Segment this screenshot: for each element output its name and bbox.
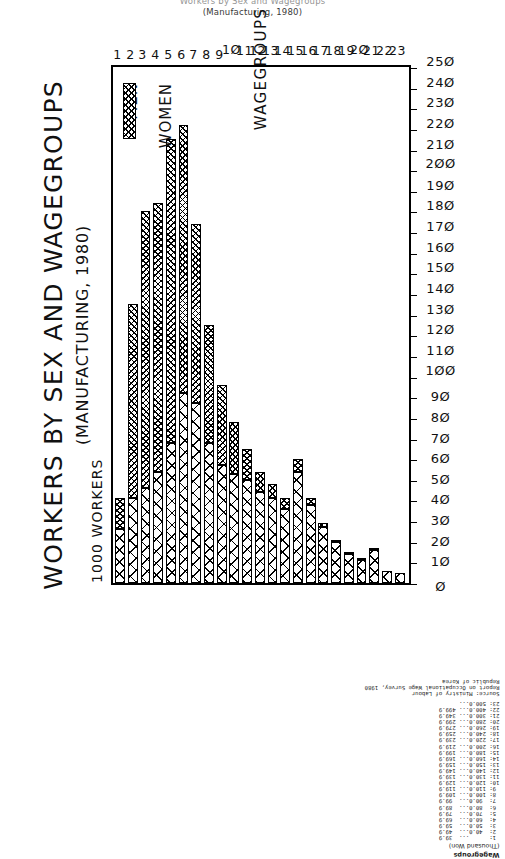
chart-title: WORKERS BY SEX AND WAGEGROUPS (39, 25, 68, 645)
bar-segment-men (293, 471, 303, 582)
legend-label-women: WOMEN (157, 83, 175, 148)
value-axis-tick (411, 129, 417, 130)
value-axis: Ø1Ø2Ø3Ø4Ø5Ø6Ø7Ø8Ø9Ø1ØØ11Ø12Ø13Ø14Ø15Ø16Ø… (411, 65, 471, 585)
bar-segment-women (216, 384, 226, 464)
bar-segment-men (229, 473, 239, 582)
wagegroup-key-row: 6: 80.0... 89.9 (364, 804, 499, 810)
wagegroup-key-row: 19: 260.0... 279.9 (364, 725, 499, 731)
source-note: Source: Ministry of LabourReport on Occu… (364, 679, 499, 697)
bar-segment-women (242, 448, 252, 479)
bar-segment-men (343, 554, 353, 583)
bar-segment-men (115, 529, 125, 583)
wagegroup-key-row: 14: 160.0... 169.9 (364, 756, 499, 762)
bar-segment-women (204, 325, 214, 443)
wagegroup-key-row: 10: 120.0... 129.9 (364, 780, 499, 786)
bar-segment-men (254, 492, 264, 583)
value-axis-tick (411, 191, 417, 192)
value-axis-tick (411, 460, 417, 461)
value-axis-tick-label: 5Ø (419, 469, 448, 489)
group-axis-title-text: WAGEGROUPS (252, 7, 270, 130)
value-axis-tick (411, 171, 417, 172)
wagegroup-key-title: Wagegroups (364, 851, 499, 859)
bar-segment-women (280, 498, 290, 508)
value-axis-tick-label: 9Ø (419, 386, 448, 406)
value-axis-title: 1000 WORKERS (89, 458, 105, 583)
value-axis-tick-label: 4Ø (419, 489, 448, 509)
wagegroup-key-row: 12: 140.0... 149.9 (364, 768, 499, 774)
bar-segment-men (178, 393, 188, 583)
bar-segment-women (293, 459, 303, 471)
bar-segment-women (369, 547, 379, 549)
value-axis-tick (411, 253, 417, 254)
chart-legend: MEN WOMEN (123, 83, 191, 233)
wagegroup-key-row: 8: 100.0... 109.9 (364, 792, 499, 798)
value-axis-tick (411, 150, 417, 151)
bar-segment-men (165, 442, 175, 582)
bar-segment-men (242, 479, 252, 582)
bar-segment-women (115, 498, 125, 529)
bar-segment-women (127, 304, 137, 498)
value-axis-tick (411, 480, 417, 481)
wagegroup-key-row: 13: 150.0... 159.9 (364, 762, 499, 768)
bar-segment-men (356, 560, 366, 583)
wagegroup-key-row: 20: 280.0... 299.9 (364, 719, 499, 725)
wagegroup-key-row: 2: 40.0... 49.9 (364, 829, 499, 835)
bar-segment-women (356, 558, 366, 560)
value-axis-tick-label: 7Ø (419, 428, 448, 448)
bar-segment-men (153, 471, 163, 582)
wagegroup-key-row: 15: 180.0... 199.9 (364, 750, 499, 756)
wagegroup-key-row: 21: 300.0... 349.9 (364, 713, 499, 719)
legend-item-women[interactable]: WOMEN (157, 83, 175, 233)
value-axis-tick (411, 212, 417, 213)
bar-segment-women (229, 422, 239, 474)
bar-segment-women (267, 483, 277, 497)
bar-segment-men (267, 498, 277, 583)
value-axis-tick (411, 274, 417, 275)
legend-swatch-women (123, 83, 136, 139)
value-axis-tick (411, 295, 417, 296)
value-axis-tick (411, 439, 417, 440)
value-axis-tick (411, 398, 417, 399)
value-axis-tick (411, 233, 417, 234)
bar-segment-men (216, 465, 226, 583)
value-axis-tick-label: 8Ø (419, 407, 448, 427)
value-axis-tick (411, 501, 417, 502)
bar-segment-women (343, 552, 353, 554)
wagegroup-key-row: 22: 400.0... 499.9 (364, 707, 499, 713)
bar-segment-women (254, 471, 264, 492)
group-axis-title: WAGEGROUPS (111, 59, 411, 79)
bar-segment-men (331, 541, 341, 582)
value-axis-tick (411, 356, 417, 357)
bar-segment-women (331, 539, 341, 541)
bar-segment-women (318, 523, 328, 527)
value-axis-tick (411, 315, 417, 316)
bar-segment-men (369, 549, 379, 582)
wagegroup-key-row: 5: 70.0... 79.9 (364, 810, 499, 816)
value-axis-tick (411, 68, 417, 69)
bar-segment-men (318, 527, 328, 583)
wagegroup-key-unit: (Thousand Won) (364, 843, 499, 850)
bar-segment-men (191, 403, 201, 583)
chart-figure: WORKERS BY SEX AND WAGEGROUPS (MANUFACTU… (33, 25, 473, 645)
wagegroup-key-row: 3: 50.0... 59.9 (364, 823, 499, 829)
bar-segment-men (280, 508, 290, 582)
value-axis-tick-label: 6Ø (419, 448, 448, 468)
bar-segment-men (204, 442, 214, 582)
wagegroup-key-row: 23: 500.0... (364, 701, 499, 707)
wagegroup-key-row: 11: 130.0... 139.9 (364, 774, 499, 780)
bar-segment-women (305, 498, 315, 504)
value-axis-tick (411, 377, 417, 378)
wagegroup-key-row: 7: 90.0... 99.9 (364, 798, 499, 804)
wagegroup-key-row: 9: 110.0... 119.9 (364, 786, 499, 792)
wagegroup-key-rows: 1: ... 39.9 2: 40.0... 49.9 3: 50.0... 5… (364, 701, 499, 841)
source-note-line: Source: Ministry of Labour (364, 691, 499, 697)
value-axis-tick (411, 418, 417, 419)
value-axis-tick (411, 336, 417, 337)
plot-area: MEN WOMEN (111, 65, 411, 585)
value-axis-tick (411, 109, 417, 110)
value-axis-tick (411, 88, 417, 89)
bar-segment-women (191, 223, 201, 403)
wagegroup-key-row: 18: 240.0... 259.9 (364, 731, 499, 737)
wagegroup-key-row: 17: 220.0... 239.9 (364, 737, 499, 743)
group-axis-tick-label: 23 (389, 42, 404, 59)
